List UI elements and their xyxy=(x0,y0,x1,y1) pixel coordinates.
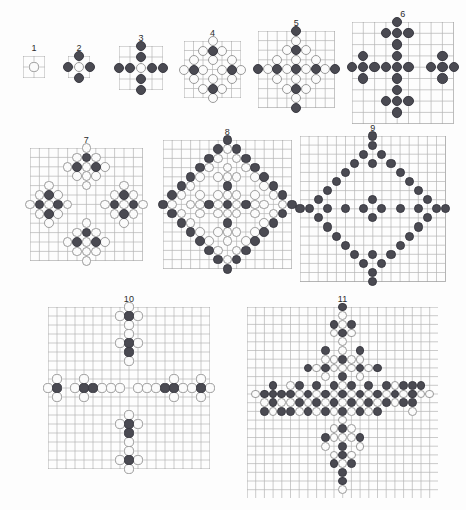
black-stone xyxy=(338,303,347,312)
white-stone xyxy=(232,200,242,210)
white-stone xyxy=(195,209,205,219)
white-stone xyxy=(100,162,110,172)
black-stone xyxy=(124,455,133,464)
white-stone xyxy=(227,74,237,84)
white-stone xyxy=(63,162,73,172)
black-stone xyxy=(44,209,54,219)
black-stone xyxy=(186,227,196,237)
black-stone xyxy=(382,381,391,390)
black-stone xyxy=(177,181,187,191)
black-stone xyxy=(85,62,95,72)
black-stone xyxy=(269,390,278,399)
black-stone xyxy=(356,433,365,442)
black-stone xyxy=(223,181,233,191)
black-stone xyxy=(241,200,251,210)
black-stone xyxy=(35,200,45,210)
black-stone xyxy=(129,200,139,210)
black-stone xyxy=(330,320,339,329)
white-stone xyxy=(227,55,237,65)
black-stone xyxy=(169,383,178,392)
white-stone xyxy=(169,392,178,401)
black-stone xyxy=(304,407,313,416)
black-stone xyxy=(356,364,365,373)
white-stone xyxy=(82,247,92,257)
white-stone xyxy=(291,55,301,65)
white-stone xyxy=(232,154,242,164)
black-stone xyxy=(356,407,365,416)
white-stone xyxy=(70,383,79,392)
white-stone xyxy=(301,64,311,74)
white-stone xyxy=(213,246,223,256)
white-stone xyxy=(204,163,214,173)
black-stone xyxy=(426,62,436,72)
white-stone xyxy=(44,218,54,228)
black-stone xyxy=(369,62,379,72)
white-stone xyxy=(232,246,242,256)
black-stone xyxy=(321,364,330,373)
black-stone xyxy=(341,204,350,213)
white-stone xyxy=(232,190,242,200)
black-stone xyxy=(124,347,133,356)
white-stone xyxy=(223,144,233,154)
white-stone xyxy=(198,46,208,56)
black-stone xyxy=(311,64,321,74)
white-stone xyxy=(260,398,269,407)
black-stone xyxy=(396,168,405,177)
stone-layer xyxy=(352,22,454,124)
white-stone xyxy=(272,74,282,84)
black-stone xyxy=(403,96,413,106)
black-stone xyxy=(414,222,423,231)
black-stone xyxy=(260,407,269,416)
black-stone xyxy=(359,150,368,159)
black-stone xyxy=(392,39,402,49)
white-stone xyxy=(330,451,339,460)
white-stone xyxy=(277,398,286,407)
white-stone xyxy=(124,320,133,329)
figure-7: 7 xyxy=(30,148,143,261)
white-stone xyxy=(110,209,120,219)
white-stone xyxy=(304,398,313,407)
black-stone xyxy=(396,241,405,250)
white-stone xyxy=(382,390,391,399)
white-stone xyxy=(136,63,146,73)
white-stone xyxy=(177,209,187,219)
black-stone xyxy=(250,236,260,246)
white-stone xyxy=(133,455,142,464)
white-stone xyxy=(72,228,82,238)
white-stone xyxy=(259,218,269,228)
black-stone xyxy=(269,218,279,228)
black-stone xyxy=(232,144,242,154)
black-stone xyxy=(291,64,301,74)
black-stone xyxy=(232,255,242,265)
stone-layer xyxy=(184,41,241,98)
white-stone xyxy=(208,93,218,103)
white-stone xyxy=(217,46,227,56)
black-stone xyxy=(213,144,223,154)
white-stone xyxy=(208,55,218,65)
black-stone xyxy=(403,28,413,38)
white-stone xyxy=(391,398,400,407)
black-stone xyxy=(291,26,301,36)
white-stone xyxy=(133,311,142,320)
black-stone xyxy=(338,477,347,486)
white-stone xyxy=(250,190,260,200)
black-stone xyxy=(368,277,377,286)
black-stone xyxy=(286,390,295,399)
black-stone xyxy=(392,107,402,117)
black-stone xyxy=(347,398,356,407)
black-stone xyxy=(136,52,146,62)
black-stone xyxy=(158,200,168,210)
white-stone xyxy=(115,455,124,464)
black-stone xyxy=(386,159,395,168)
white-stone xyxy=(29,62,38,71)
white-stone xyxy=(82,237,92,247)
white-stone xyxy=(347,451,356,460)
black-stone xyxy=(269,381,278,390)
white-stone xyxy=(115,338,124,347)
black-stone xyxy=(314,195,323,204)
white-stone xyxy=(338,459,347,468)
white-stone xyxy=(196,374,205,383)
white-stone xyxy=(272,55,282,65)
white-stone xyxy=(74,62,84,72)
black-stone xyxy=(381,28,391,38)
